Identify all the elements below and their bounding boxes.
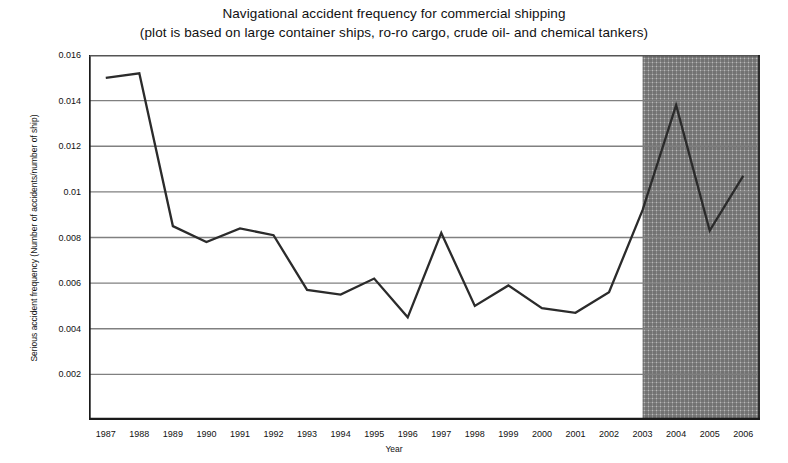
x-tick-label: 1993 bbox=[287, 429, 327, 439]
x-tick-label: 1987 bbox=[86, 429, 126, 439]
x-tick-label: 2001 bbox=[555, 429, 595, 439]
chart-title-block: Navigational accident frequency for comm… bbox=[0, 4, 788, 42]
x-tick-label: 1996 bbox=[388, 429, 428, 439]
plot-svg bbox=[89, 55, 760, 420]
y-axis-title: Serious accident frequency (Number of ac… bbox=[29, 88, 39, 388]
x-tick-label: 1994 bbox=[321, 429, 361, 439]
x-tick-label: 1999 bbox=[488, 429, 528, 439]
x-tick-label: 1992 bbox=[254, 429, 294, 439]
x-tick-label: 1990 bbox=[186, 429, 226, 439]
x-axis-title: Year bbox=[0, 444, 788, 454]
x-tick-label: 1991 bbox=[220, 429, 260, 439]
x-tick-label: 2002 bbox=[589, 429, 629, 439]
x-tick-label: 1988 bbox=[119, 429, 159, 439]
chart-subtitle: (plot is based on large container ships,… bbox=[0, 23, 788, 42]
x-tick-label: 2004 bbox=[656, 429, 696, 439]
x-tick-label: 1997 bbox=[421, 429, 461, 439]
x-tick-label: 2003 bbox=[623, 429, 663, 439]
chart-figure: Navigational accident frequency for comm… bbox=[0, 0, 788, 463]
x-tick-label: 1995 bbox=[354, 429, 394, 439]
chart-title: Navigational accident frequency for comm… bbox=[0, 4, 788, 23]
x-tick-label: 2000 bbox=[522, 429, 562, 439]
y-tick-label: 0.016 bbox=[21, 50, 81, 60]
x-tick-label: 2005 bbox=[690, 429, 730, 439]
x-tick-label: 2006 bbox=[723, 429, 763, 439]
plot-area bbox=[89, 55, 760, 420]
x-tick-label: 1989 bbox=[153, 429, 193, 439]
x-tick-label: 1998 bbox=[455, 429, 495, 439]
